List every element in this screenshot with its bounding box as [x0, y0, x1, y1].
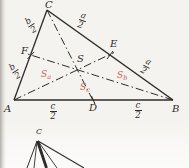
- fraction-denominator: 2: [132, 112, 144, 120]
- vertex-label-a: A: [4, 104, 11, 114]
- fraction-denominator: 2: [47, 113, 59, 121]
- figure2-apex-label-c: C: [36, 128, 42, 136]
- area-label-subscript: a: [47, 73, 51, 81]
- figure2-linework: [27, 141, 84, 168]
- midpoint-label-d: D: [89, 103, 97, 113]
- area-label-sc: Sc: [80, 83, 90, 95]
- area-label-subscript: b: [123, 74, 127, 82]
- fraction-c-half-right: c 2: [132, 102, 144, 119]
- area-label-sa: Sa: [41, 70, 51, 82]
- area-label-sb: Sb: [117, 71, 127, 83]
- fraction-c-half-left: c 2: [47, 103, 59, 120]
- fraction-numerator: c: [47, 103, 59, 111]
- midpoint-label-f: F: [21, 46, 28, 56]
- fraction-numerator: c: [132, 102, 144, 110]
- centroid-label-s: S: [77, 54, 84, 64]
- area-label-subscript: c: [86, 86, 90, 94]
- scanned-figure-page: C A B D E F S b 2 b 2 a 2 a 2 c 2 c 2 Sa…: [0, 0, 189, 168]
- vertex-label-c: C: [45, 0, 53, 10]
- midpoint-label-e: E: [110, 39, 117, 49]
- vertex-label-b: B: [172, 104, 179, 114]
